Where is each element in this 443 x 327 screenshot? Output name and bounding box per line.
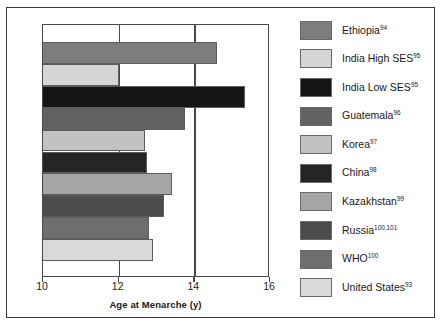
legend-item-ethiopia[interactable]: Ethiopia94 — [300, 16, 432, 45]
plot-area — [42, 24, 269, 277]
legend-swatch — [300, 192, 332, 211]
bar-row — [43, 195, 270, 217]
bar-korea — [43, 130, 145, 152]
legend-swatch — [300, 164, 332, 183]
legend-label: India High SES95 — [342, 53, 420, 65]
bar-row — [43, 152, 270, 174]
legend-item-who[interactable]: WHO100 — [300, 245, 432, 274]
legend-reference-superscript: 95 — [411, 80, 418, 87]
bar-russia — [43, 195, 164, 217]
legend-reference-superscript: 98 — [369, 166, 376, 173]
legend-reference-superscript: 97 — [370, 137, 377, 144]
legend-item-korea[interactable]: Korea97 — [300, 130, 432, 159]
bar-row — [43, 217, 270, 239]
bar-india-low-ses — [43, 86, 245, 108]
x-tick-label-12: 12 — [112, 280, 124, 292]
legend-label: China98 — [342, 167, 377, 179]
bar-series — [43, 25, 268, 276]
legend-swatch — [300, 221, 332, 240]
legend-reference-superscript: 95 — [413, 52, 420, 59]
legend: Ethiopia94India High SES95India Low SES9… — [300, 16, 432, 302]
legend-item-india-high-ses[interactable]: India High SES95 — [300, 45, 432, 74]
bar-china — [43, 152, 147, 174]
legend-reference-superscript: 93 — [405, 280, 412, 287]
legend-item-united-states[interactable]: United States93 — [300, 273, 432, 302]
figure-root: Country of Origin 10121416 Age at Menarc… — [0, 0, 443, 327]
legend-label: Kazakhstan99 — [342, 196, 404, 208]
bar-row — [43, 239, 270, 261]
bar-india-high-ses — [43, 64, 119, 86]
legend-reference-superscript: 100 — [368, 252, 379, 259]
bar-kazakhstan — [43, 173, 172, 195]
legend-reference-superscript: 96 — [393, 109, 400, 116]
chart-area: Country of Origin 10121416 Age at Menarc… — [10, 14, 285, 299]
legend-label: Russia100,101 — [342, 225, 397, 237]
legend-swatch — [300, 250, 332, 269]
legend-label: India Low SES95 — [342, 82, 418, 94]
bar-row — [43, 86, 270, 108]
legend-item-india-low-ses[interactable]: India Low SES95 — [300, 73, 432, 102]
bar-united-states — [43, 239, 153, 261]
legend-swatch — [300, 21, 332, 40]
x-tick-label-16: 16 — [263, 280, 275, 292]
legend-label: United States93 — [342, 282, 412, 294]
legend-item-russia[interactable]: Russia100,101 — [300, 216, 432, 245]
legend-swatch — [300, 135, 332, 154]
legend-item-kazakhstan[interactable]: Kazakhstan99 — [300, 188, 432, 217]
legend-swatch — [300, 278, 332, 297]
legend-label: Korea97 — [342, 139, 377, 151]
legend-label: Guatemala96 — [342, 110, 400, 122]
legend-item-guatemala[interactable]: Guatemala96 — [300, 102, 432, 131]
legend-item-china[interactable]: China98 — [300, 159, 432, 188]
bar-ethiopia — [43, 42, 217, 64]
bar-row — [43, 64, 270, 86]
legend-swatch — [300, 49, 332, 68]
legend-label: WHO100 — [342, 253, 378, 265]
x-axis-title: Age at Menarche (y) — [42, 299, 269, 310]
x-tick-label-14: 14 — [187, 280, 199, 292]
x-axis-tick-labels: 10121416 — [42, 280, 269, 296]
bar-row — [43, 130, 270, 152]
bar-row — [43, 173, 270, 195]
bar-who — [43, 217, 149, 239]
legend-reference-superscript: 100,101 — [374, 223, 397, 230]
legend-swatch — [300, 107, 332, 126]
x-tick-label-10: 10 — [36, 280, 48, 292]
legend-label: Ethiopia94 — [342, 25, 387, 37]
legend-swatch — [300, 78, 332, 97]
legend-reference-superscript: 99 — [397, 195, 404, 202]
bar-row — [43, 108, 270, 130]
legend-reference-superscript: 94 — [380, 23, 387, 30]
bar-row — [43, 42, 270, 64]
bar-guatemala — [43, 108, 185, 130]
